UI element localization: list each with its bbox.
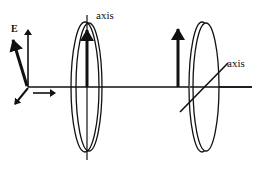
polarizer-2: axis (178, 22, 252, 152)
polarizer-1-front-rim (76, 23, 102, 151)
coordinate-axes: E (11, 23, 55, 104)
e-field-arrow-icon (13, 40, 27, 86)
polarizer-2-axis-label: axis (227, 57, 245, 69)
polarizer-1: axis (71, 9, 114, 160)
e-field-label: E (11, 23, 18, 34)
polarizer-1-axis-label: axis (96, 9, 114, 21)
depth-axis-arrow-icon (15, 88, 28, 104)
polarizer-diagram: E axis axis (0, 0, 265, 169)
